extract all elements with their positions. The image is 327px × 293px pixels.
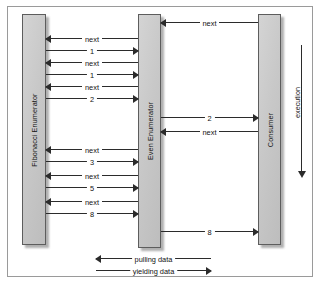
execution-axis-label: execution [293,87,302,118]
lifeline-label-even: Even Enumerator [145,102,154,160]
legend-yielding: yielding data [96,265,211,276]
legend-label: yielding data [130,266,178,275]
arrowhead-right-icon [206,267,212,275]
lifeline-fibonacci: Fibonacci Enumerator [22,14,46,245]
lifeline-even: Even Enumerator [138,14,161,248]
lifeline-label-consumer: Consumer [265,112,274,146]
legend-pulling: pulling data [96,253,211,264]
execution-arrowhead-icon [298,171,306,178]
arrowhead-left-icon [95,255,101,263]
lifeline-label-fibonacci: Fibonacci Enumerator [30,93,39,166]
sequence-diagram-figure: Fibonacci EnumeratorEven EnumeratorConsu… [0,0,327,293]
lifeline-consumer: Consumer [258,14,281,245]
legend-label: pulling data [132,254,176,263]
